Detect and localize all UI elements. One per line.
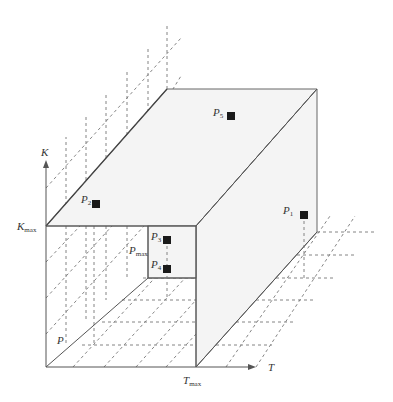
label-tmax: Tmax bbox=[183, 374, 202, 388]
point-p1 bbox=[300, 211, 308, 219]
label-t-axis: T bbox=[268, 361, 275, 373]
point-p5 bbox=[227, 112, 235, 120]
k-axis-arrow-icon bbox=[43, 160, 49, 168]
box-faces bbox=[46, 89, 317, 367]
point-p3 bbox=[163, 236, 171, 244]
label-pmax: Pmax bbox=[128, 244, 148, 258]
label-k-axis: K bbox=[40, 146, 49, 158]
3d-box-diagram: P1 P2 P3 P4 P5 Pmax Kmax Tmax K T P bbox=[0, 0, 393, 402]
t-axis-arrow-icon bbox=[248, 364, 256, 370]
label-kmax: Kmax bbox=[16, 220, 37, 234]
label-p: P bbox=[56, 334, 64, 346]
point-p4 bbox=[163, 265, 171, 273]
point-p2 bbox=[92, 200, 100, 208]
